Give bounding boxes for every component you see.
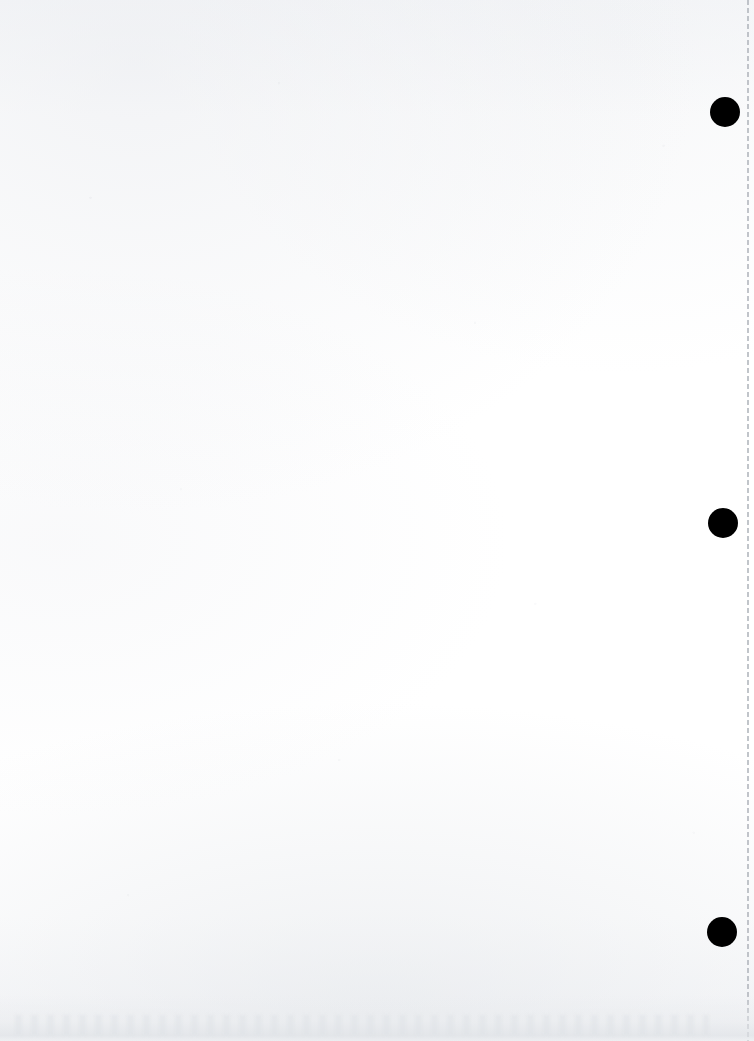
page-text-content <box>40 40 684 981</box>
punch-dot-top <box>710 97 740 127</box>
scanned-page <box>0 0 754 1041</box>
right-margin-dashed-rule <box>747 0 749 1041</box>
punch-dot-middle <box>708 508 738 538</box>
bottom-edge-smudge <box>0 995 754 1041</box>
punch-dot-bottom <box>707 917 737 947</box>
